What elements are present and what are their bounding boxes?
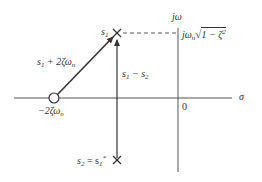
zero-sub: n <box>60 110 64 118</box>
zero-text: −2ζω <box>38 105 60 116</box>
imag-prefix: jω <box>182 29 192 40</box>
v1-tail: + 2ζω <box>44 56 71 67</box>
origin-text: 0 <box>182 101 187 112</box>
imag-part-label: jωn√1 − ζ2 <box>182 29 226 42</box>
vector-s2-s1-label: s1 − s2 <box>122 69 149 81</box>
pole-s1-label: s1 <box>101 27 108 39</box>
pole-s1-cross-icon <box>113 29 121 37</box>
sqrt-body: 1 − ζ2 <box>201 27 225 40</box>
v2-mid-sub: 2 <box>145 73 149 81</box>
sqrt-sup: 2 <box>222 28 226 36</box>
v2-mid: − s <box>129 68 145 79</box>
vector-zero-s1-label: s1 + 2ζωn <box>37 57 75 69</box>
pole-s2-label: s2 = s1* <box>77 155 106 168</box>
sigma-text: σ <box>239 91 244 102</box>
jw-axis-label: jω <box>172 12 182 22</box>
sqrt-body-text: 1 − ζ <box>201 29 222 40</box>
conj-sup: * <box>102 154 106 162</box>
origin-label: 0 <box>182 102 187 112</box>
zero-label: −2ζωn <box>38 106 64 118</box>
s1-sub: 1 <box>105 31 109 39</box>
sigma-axis-label: σ <box>239 92 244 102</box>
s2-eq: = s <box>84 155 99 166</box>
v1-tail-sub: n <box>72 61 76 69</box>
zero-circle-icon <box>49 93 59 103</box>
jw-text: jω <box>172 11 182 22</box>
